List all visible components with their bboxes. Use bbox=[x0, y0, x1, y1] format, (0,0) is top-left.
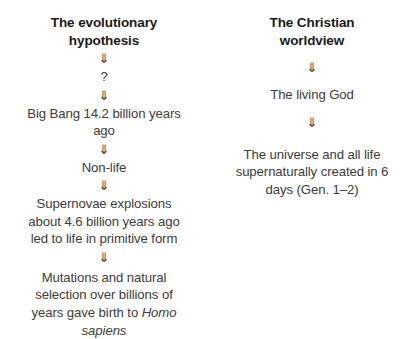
node-mutations: Mutations and natural selection over bil… bbox=[32, 269, 177, 339]
down-double-arrow-icon: ⇓ bbox=[307, 116, 318, 129]
column-christian-worldview: The Christian worldview ⇓ The living God… bbox=[208, 14, 416, 198]
down-double-arrow-icon: ⇓ bbox=[99, 89, 110, 102]
down-double-arrow-icon: ⇓ bbox=[99, 179, 110, 192]
node-non-life: Non-life bbox=[82, 159, 127, 177]
down-double-arrow-icon: ⇓ bbox=[99, 251, 110, 264]
down-double-arrow-icon: ⇓ bbox=[99, 143, 110, 156]
node-living-god: The living God bbox=[270, 86, 354, 104]
node-universe-created: The universe and all life supernaturally… bbox=[236, 146, 389, 199]
down-double-arrow-icon: ⇓ bbox=[99, 52, 110, 65]
down-double-arrow-icon: ⇓ bbox=[307, 61, 318, 74]
node-big-bang: Big Bang 14.2 billion years ago bbox=[27, 105, 180, 140]
column-header-christian: The Christian worldview bbox=[270, 14, 355, 49]
column-header-evolutionary: The evolutionary hypothesis bbox=[51, 14, 157, 49]
node-question: ? bbox=[100, 68, 107, 86]
column-evolutionary-hypothesis: The evolutionary hypothesis ⇓ ? ⇓ Big Ba… bbox=[0, 14, 208, 339]
node-supernovae: Supernovae explosions about 4.6 billion … bbox=[28, 195, 179, 248]
